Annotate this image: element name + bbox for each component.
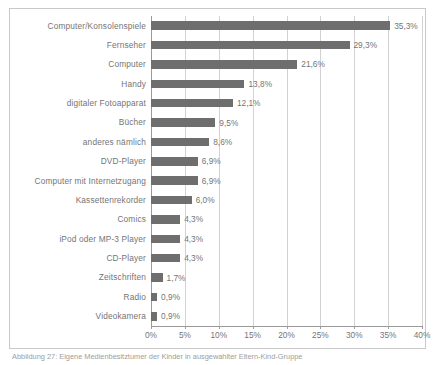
x-tick-label: 40% — [414, 331, 431, 339]
bar-row: Computer mit Internetzugang6,9% — [151, 171, 422, 190]
bar: 6,9% — [151, 157, 198, 166]
bar-value-label: 1,7% — [167, 273, 186, 281]
bar: 4,3% — [151, 254, 180, 263]
bar-row: Computer/Konsolenspiele35,3% — [151, 16, 422, 35]
bar-row: Kassettenrekorder6,0% — [151, 190, 422, 209]
bar-row: Comics4,3% — [151, 210, 422, 229]
bar: 0,9% — [151, 312, 157, 321]
bar: 8,6% — [151, 138, 209, 147]
x-tick-label: 5% — [179, 331, 191, 339]
bar: 1,7% — [151, 273, 163, 282]
x-tick-label: 35% — [380, 331, 397, 339]
bar-value-label: 29,3% — [354, 41, 378, 49]
x-tick-label: 25% — [312, 331, 329, 339]
bar-row: iPod oder MP-3 Player4,3% — [151, 229, 422, 248]
category-label: iPod oder MP-3 Player — [59, 235, 146, 243]
category-label: Fernseher — [107, 41, 146, 49]
bar-row: Handy13,8% — [151, 74, 422, 93]
x-tick-label: 20% — [278, 331, 295, 339]
bar: 6,0% — [151, 196, 192, 205]
bar: 0,9% — [151, 293, 157, 302]
bar: 9,5% — [151, 118, 215, 127]
bar-value-label: 9,5% — [219, 118, 238, 126]
bar-row: digitaler Fotoapparat12,1% — [151, 94, 422, 113]
bar-value-label: 35,3% — [394, 22, 418, 30]
category-label: Comics — [117, 215, 146, 223]
x-tick — [354, 326, 355, 329]
x-tick — [253, 326, 254, 329]
x-tick — [185, 326, 186, 329]
x-tick-label: 15% — [244, 331, 261, 339]
bar-row: Fernseher29,3% — [151, 35, 422, 54]
chart-figure: Computer/Konsolenspiele35,3%Fernseher29,… — [0, 0, 434, 365]
bar: 29,3% — [151, 41, 350, 50]
bar-value-label: 8,6% — [213, 138, 232, 146]
bar-row: Zeitschriften1,7% — [151, 268, 422, 287]
bar-value-label: 6,9% — [202, 157, 221, 165]
bar: 35,3% — [151, 21, 390, 30]
category-label: Videokamera — [96, 312, 146, 320]
bar: 12,1% — [151, 99, 233, 108]
bar: 6,9% — [151, 176, 198, 185]
x-tick — [320, 326, 321, 329]
bar-row: DVD-Player6,9% — [151, 152, 422, 171]
bar-value-label: 6,0% — [196, 196, 215, 204]
category-label: anderes nämlich — [83, 138, 146, 146]
bar-row: Bücher9,5% — [151, 113, 422, 132]
bar-value-label: 0,9% — [161, 293, 180, 301]
category-label: Computer/Konsolenspiele — [48, 22, 146, 30]
bar-value-label: 4,3% — [184, 235, 203, 243]
category-label: Computer — [108, 60, 146, 68]
category-label: CD-Player — [106, 254, 146, 262]
x-tick-label: 0% — [145, 331, 157, 339]
figure-caption: Abbildung 27: Eigene Medienbesitztumer d… — [12, 352, 432, 361]
x-tick — [151, 326, 152, 329]
bar-value-label: 12,1% — [237, 99, 261, 107]
bar-value-label: 13,8% — [248, 80, 272, 88]
x-tick — [219, 326, 220, 329]
bar-value-label: 0,9% — [161, 312, 180, 320]
bar-row: Radio0,9% — [151, 287, 422, 306]
x-tick — [422, 326, 423, 329]
category-label: Kassettenrekorder — [76, 196, 146, 204]
plot-area: Computer/Konsolenspiele35,3%Fernseher29,… — [151, 16, 422, 326]
category-label: Bücher — [119, 118, 146, 126]
category-label: Handy — [121, 80, 146, 88]
bar-value-label: 21,6% — [301, 60, 325, 68]
bar-row: Computer21,6% — [151, 55, 422, 74]
bar-value-label: 4,3% — [184, 215, 203, 223]
bar-row: CD-Player4,3% — [151, 249, 422, 268]
category-label: Radio — [124, 293, 146, 301]
category-label: Zeitschriften — [99, 273, 146, 281]
category-label: digitaler Fotoapparat — [67, 99, 146, 107]
x-tick — [388, 326, 389, 329]
x-tick-label: 10% — [210, 331, 227, 339]
category-label: Computer mit Internetzugang — [34, 177, 146, 185]
chart-frame: Computer/Konsolenspiele35,3%Fernseher29,… — [9, 8, 426, 349]
bar-rows: Computer/Konsolenspiele35,3%Fernseher29,… — [151, 16, 422, 326]
bar-value-label: 4,3% — [184, 254, 203, 262]
bar-row: anderes nämlich8,6% — [151, 132, 422, 151]
bar: 4,3% — [151, 215, 180, 224]
category-label: DVD-Player — [101, 157, 146, 165]
bar: 4,3% — [151, 235, 180, 244]
bar: 21,6% — [151, 60, 297, 69]
bar: 13,8% — [151, 80, 244, 89]
x-tick-label: 30% — [346, 331, 363, 339]
gridline-40pct — [422, 16, 423, 326]
x-tick — [287, 326, 288, 329]
bar-row: Videokamera0,9% — [151, 307, 422, 326]
bar-value-label: 6,9% — [202, 177, 221, 185]
